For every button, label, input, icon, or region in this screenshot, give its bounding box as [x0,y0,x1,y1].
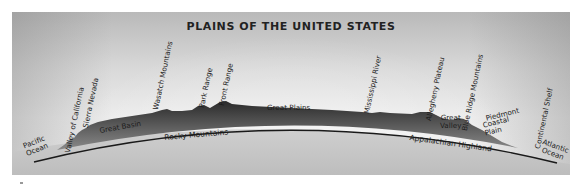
diagram-panel: PLAINS OF THE UNITED STATES Pacific Ocea… [12,12,570,175]
label-great-plains: Great Plains [267,104,310,111]
label-great-valley: Great Valley [440,114,461,131]
corner-mark [20,182,23,184]
